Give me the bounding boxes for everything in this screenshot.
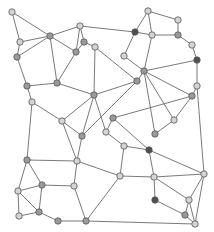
graph-node — [55, 218, 61, 224]
graph-node — [152, 197, 158, 203]
graph-node — [14, 54, 20, 60]
graph-edge — [57, 52, 76, 83]
graph-node — [145, 8, 151, 14]
graph-node — [92, 44, 98, 50]
graph-node — [36, 209, 42, 215]
graph-node — [175, 32, 181, 38]
graph-node — [29, 99, 35, 105]
graph-edge — [120, 146, 124, 176]
graph-edge — [144, 60, 197, 71]
graph-node — [73, 49, 79, 55]
graph-node — [83, 218, 89, 224]
graph-edge — [50, 36, 57, 83]
graph-node — [47, 33, 53, 39]
graph-node — [151, 174, 157, 180]
graph-edge — [18, 191, 19, 216]
graph-node — [9, 9, 15, 15]
graph-edge — [77, 161, 120, 176]
graph-edge — [39, 185, 42, 212]
graph-node — [54, 80, 60, 86]
graph-node — [79, 133, 85, 139]
graph-node — [171, 117, 177, 123]
graph-edge — [86, 221, 195, 224]
graph-node — [146, 147, 152, 153]
graph-node — [121, 53, 127, 59]
graph-edge — [124, 32, 135, 56]
graph-edge — [32, 102, 62, 121]
graph-node — [175, 17, 181, 23]
graph-edge — [18, 160, 27, 191]
graph-edge — [86, 176, 120, 221]
graph-node — [117, 173, 123, 179]
graph-edge — [62, 95, 94, 121]
graph-edge — [80, 26, 135, 32]
graph-edge — [27, 83, 57, 86]
graph-edge — [149, 150, 154, 177]
graph-edge — [189, 200, 195, 224]
graph-edge — [155, 200, 185, 215]
graph-node — [149, 32, 155, 38]
graph-edge — [148, 11, 152, 35]
network-graph — [0, 0, 214, 232]
graph-node — [103, 129, 109, 135]
graph-node — [59, 118, 65, 124]
graph-node — [134, 78, 140, 84]
graph-edge — [148, 11, 178, 20]
graph-edge — [74, 186, 86, 221]
graph-edge — [17, 57, 27, 86]
graph-edge — [113, 118, 149, 150]
graph-node — [121, 143, 127, 149]
graph-edge — [18, 191, 39, 212]
graph-edge — [18, 185, 42, 191]
graph-edge — [124, 56, 144, 71]
graph-edge — [74, 161, 77, 186]
graph-node — [81, 39, 87, 45]
graph-node — [16, 213, 22, 219]
graph-edge — [77, 136, 82, 161]
graph-node — [141, 68, 147, 74]
graph-node — [17, 39, 23, 45]
graph-node — [182, 212, 188, 218]
graph-edge — [50, 26, 80, 36]
graph-node — [132, 29, 138, 35]
graph-node — [91, 92, 97, 98]
graph-node — [194, 57, 200, 63]
graph-node — [152, 131, 158, 137]
graph-edge — [113, 96, 192, 118]
graph-edge — [120, 176, 154, 177]
graph-node — [77, 23, 83, 29]
graph-nodes — [9, 8, 207, 227]
graph-edge — [50, 36, 76, 52]
graph-edge — [27, 102, 32, 160]
graph-edge — [174, 96, 192, 120]
graph-node — [39, 182, 45, 188]
graph-node — [189, 42, 195, 48]
graph-node — [74, 158, 80, 164]
graph-edge — [144, 35, 152, 71]
graph-edge — [197, 86, 204, 174]
graph-node — [194, 83, 200, 89]
graph-node — [15, 188, 21, 194]
graph-edge — [149, 150, 204, 174]
graph-node — [24, 83, 30, 89]
graph-node — [189, 93, 195, 99]
graph-node — [192, 221, 198, 227]
graph-edge — [154, 177, 189, 200]
graph-edge — [57, 83, 94, 95]
graph-edge — [135, 11, 148, 32]
graph-node — [110, 115, 116, 121]
graph-node — [201, 171, 207, 177]
graph-edge — [95, 47, 137, 81]
graph-edge — [94, 47, 95, 95]
graph-edge — [27, 160, 42, 185]
graph-edge — [27, 160, 77, 161]
graph-edge — [154, 174, 204, 177]
graph-node — [186, 197, 192, 203]
graph-node — [24, 157, 30, 163]
graph-node — [71, 183, 77, 189]
graph-edge — [42, 185, 74, 186]
